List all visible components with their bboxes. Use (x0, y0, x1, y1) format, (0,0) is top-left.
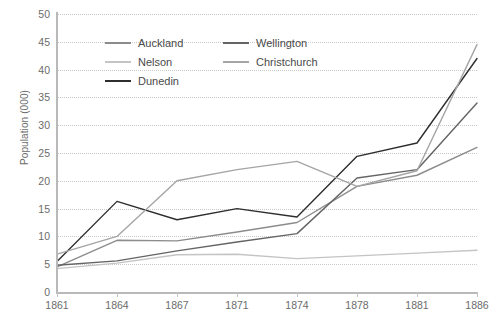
legend-swatch-icon (105, 42, 131, 44)
legend-item-nelson[interactable]: Nelson (105, 56, 223, 68)
legend-item-christchurch[interactable]: Christchurch (223, 56, 353, 68)
legend-item-dunedin[interactable]: Dunedin (105, 75, 223, 87)
legend-label: Christchurch (256, 56, 318, 68)
x-tick-mark (417, 292, 418, 297)
legend-swatch-icon (105, 61, 131, 63)
legend-item-wellington[interactable]: Wellington (223, 37, 353, 49)
x-tick-mark (237, 292, 238, 297)
legend-item-auckland[interactable]: Auckland (105, 37, 223, 49)
x-tick-label: 1864 (87, 299, 147, 311)
x-tick-label: 1871 (207, 299, 267, 311)
x-tick-mark (177, 292, 178, 297)
legend-label: Dunedin (138, 75, 179, 87)
x-tick-mark (477, 292, 478, 297)
x-tick-label: 1878 (327, 299, 387, 311)
line-chart: Population (000) 05101520253035404550 18… (0, 0, 493, 327)
x-tick-mark (297, 292, 298, 297)
legend-swatch-icon (223, 61, 249, 63)
legend-swatch-icon (105, 80, 131, 82)
x-tick-mark (57, 292, 58, 297)
x-tick-label: 1881 (387, 299, 447, 311)
legend-label: Wellington (256, 37, 307, 49)
legend-label: Nelson (138, 56, 172, 68)
legend-swatch-icon (223, 42, 249, 44)
x-tick-label: 1886 (447, 299, 493, 311)
x-tick-label: 1867 (147, 299, 207, 311)
x-tick-mark (357, 292, 358, 297)
x-tick-label: 1874 (267, 299, 327, 311)
x-tick-label: 1861 (27, 299, 87, 311)
legend-label: Auckland (138, 37, 183, 49)
x-tick-mark (117, 292, 118, 297)
chart-legend: AucklandWellingtonNelsonChristchurchDune… (105, 33, 353, 90)
